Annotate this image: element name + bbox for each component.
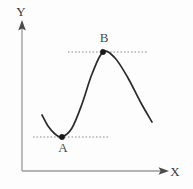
function-curve <box>42 51 152 137</box>
x-axis-label: X <box>170 164 180 179</box>
point-a-marker <box>59 134 64 139</box>
function-graph-svg: Y X A B <box>0 0 193 189</box>
point-b-marker <box>100 49 105 54</box>
point-a-label: A <box>58 140 68 155</box>
y-axis-label: Y <box>16 4 26 19</box>
point-b-label: B <box>100 30 109 45</box>
figure-canvas: Y X A B <box>0 0 193 189</box>
